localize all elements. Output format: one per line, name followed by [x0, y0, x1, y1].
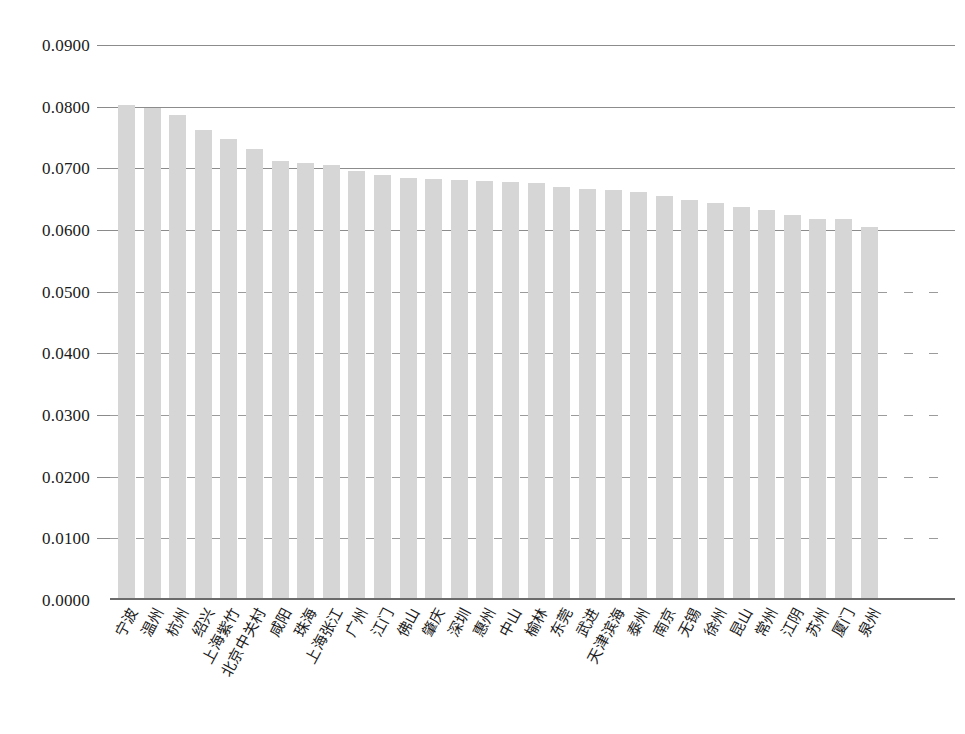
bar[interactable] [605, 190, 622, 600]
x-tick-label: 厦门 [830, 606, 857, 640]
bar[interactable] [272, 161, 289, 600]
y-tick-mark [97, 168, 110, 169]
bar[interactable] [246, 149, 263, 600]
x-label-slot: 杭州 [165, 604, 191, 734]
y-tick-label: 0.0400 [42, 345, 90, 362]
bar[interactable] [784, 215, 801, 600]
bar[interactable] [476, 181, 493, 600]
bar-slot [319, 45, 345, 600]
x-label-slot: 泰州 [626, 604, 652, 734]
x-tick-label: 江门 [369, 606, 396, 640]
x-label-slot: 南京 [652, 604, 678, 734]
y-tick-label: 0.0700 [42, 160, 90, 177]
y-tick-mark [97, 538, 110, 539]
bar[interactable] [144, 108, 161, 600]
bar-slot [498, 45, 524, 600]
x-label-slot: 天津滨海 [601, 604, 627, 734]
x-label-slot: 昆山 [729, 604, 755, 734]
y-tick-label: 0.0000 [42, 592, 90, 609]
bar[interactable] [809, 219, 826, 600]
bar[interactable] [297, 163, 314, 600]
x-axis-baseline [110, 598, 955, 600]
bar-slot [780, 45, 806, 600]
bar[interactable] [220, 139, 237, 600]
bar-slot [421, 45, 447, 600]
bar-slot [396, 45, 422, 600]
x-label-slot: 惠州 [472, 604, 498, 734]
x-tick-label: 常州 [753, 606, 780, 640]
bar-slot [805, 45, 831, 600]
x-label-slot: 肇庆 [421, 604, 447, 734]
bar-slot [703, 45, 729, 600]
bar[interactable] [861, 227, 878, 600]
x-tick-label: 温州 [139, 606, 166, 640]
x-tick-label: 榆林 [523, 606, 550, 640]
bar-slot [293, 45, 319, 600]
x-tick-label: 咸阳 [267, 606, 294, 640]
bar-slot [857, 45, 883, 600]
x-label-slot: 东莞 [549, 604, 575, 734]
y-tick-mark [97, 230, 110, 231]
bar[interactable] [656, 196, 673, 600]
bar[interactable] [835, 219, 852, 600]
y-tick-label: 0.0500 [42, 283, 90, 300]
x-label-slot: 北京中关村 [242, 604, 268, 734]
bar-slot [601, 45, 627, 600]
bar-series [110, 45, 955, 600]
y-tick-label: 0.0800 [42, 98, 90, 115]
bar[interactable] [733, 207, 750, 600]
x-label-slot: 深圳 [447, 604, 473, 734]
bar[interactable] [169, 115, 186, 600]
x-tick-label: 昆山 [727, 606, 754, 640]
x-tick-label: 苏州 [804, 606, 831, 640]
x-tick-label: 宁波 [113, 606, 140, 640]
y-tick-label: 0.0100 [42, 530, 90, 547]
bar-slot [140, 45, 166, 600]
x-tick-label: 中山 [497, 606, 524, 640]
y-tick-label: 0.0200 [42, 468, 90, 485]
y-tick-mark [97, 415, 110, 416]
bar[interactable] [451, 180, 468, 600]
bar[interactable] [118, 105, 135, 600]
x-label-slot: 武进 [575, 604, 601, 734]
bar[interactable] [502, 182, 519, 600]
x-tick-label: 佛山 [395, 606, 422, 640]
y-tick-mark [97, 292, 110, 293]
bar[interactable] [425, 179, 442, 600]
bar[interactable] [195, 130, 212, 600]
bar[interactable] [348, 171, 365, 600]
bar-slot [191, 45, 217, 600]
bar[interactable] [758, 210, 775, 600]
x-tick-label: 广州 [343, 606, 370, 640]
bar[interactable] [579, 189, 596, 600]
x-label-slot: 温州 [140, 604, 166, 734]
x-tick-label: 江阴 [779, 606, 806, 640]
bar-slot [472, 45, 498, 600]
x-label-slot: 上海张江 [319, 604, 345, 734]
x-tick-label: 徐州 [702, 606, 729, 640]
bar[interactable] [681, 200, 698, 600]
bar-slot [524, 45, 550, 600]
bar-slot [165, 45, 191, 600]
bar[interactable] [374, 175, 391, 601]
x-label-slot: 泉州 [857, 604, 883, 734]
bar[interactable] [323, 165, 340, 600]
x-label-slot: 江门 [370, 604, 396, 734]
bar[interactable] [400, 178, 417, 600]
bar-slot [626, 45, 652, 600]
x-label-slot: 绍兴 [191, 604, 217, 734]
x-label-slot: 徐州 [703, 604, 729, 734]
bar-chart: 0.09000.08000.07000.06000.05000.04000.03… [0, 0, 965, 734]
bar[interactable] [553, 187, 570, 600]
bar[interactable] [630, 192, 647, 600]
x-label-slot: 宁波 [114, 604, 140, 734]
bar-slot [729, 45, 755, 600]
x-tick-label: 无锡 [676, 606, 703, 640]
bar[interactable] [707, 203, 724, 600]
y-tick-mark [97, 477, 110, 478]
bar-slot [549, 45, 575, 600]
y-tick-mark [97, 353, 110, 354]
bar[interactable] [528, 183, 545, 600]
x-axis-labels: 宁波温州杭州绍兴上海紫竹北京中关村咸阳珠海上海张江广州江门佛山肇庆深圳惠州中山榆… [110, 604, 955, 734]
x-tick-label: 东莞 [548, 606, 575, 640]
